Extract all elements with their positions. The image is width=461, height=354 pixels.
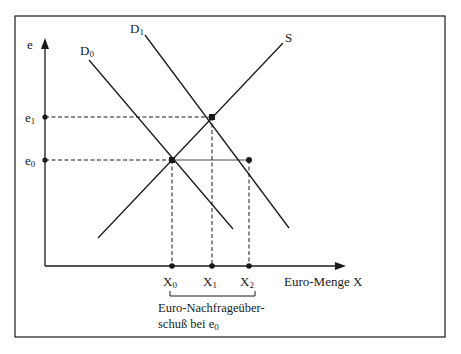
x-axis-label-text: Euro-Menge X bbox=[284, 274, 362, 289]
x-axis-arrow-icon bbox=[335, 262, 346, 270]
excess-demand-caption: Euro-Nachfrageüber- schuß bei e0 bbox=[158, 300, 265, 335]
point-x1-axis bbox=[209, 263, 215, 269]
excess-demand-bracket bbox=[170, 291, 255, 296]
y-axis-label: e bbox=[27, 38, 33, 51]
equilibrium-point-e0 bbox=[169, 157, 175, 163]
x-axis-label: Euro-Menge X bbox=[284, 275, 362, 288]
x-point-x2-label: X2 bbox=[240, 275, 254, 290]
supply-curve-s bbox=[98, 43, 283, 238]
x-point-x0-sub: 0 bbox=[172, 280, 177, 290]
x-point-x1-label: X1 bbox=[203, 275, 217, 290]
curve-label-d0-sub: 0 bbox=[89, 49, 94, 59]
y-axis-label-text: e bbox=[27, 37, 33, 52]
caption-line-2-sub: 0 bbox=[214, 322, 219, 332]
caption-line-1: Euro-Nachfrageüber- bbox=[158, 300, 265, 316]
point-e0-axis bbox=[42, 157, 47, 162]
curve-label-s-main: S bbox=[285, 30, 292, 45]
y-level-e0-label: e0 bbox=[25, 154, 35, 169]
y-level-e1-sub: 1 bbox=[31, 116, 36, 126]
demand-curve-d0 bbox=[89, 60, 233, 229]
point-x2-axis bbox=[246, 263, 252, 269]
curve-label-d1-sub: 1 bbox=[139, 27, 144, 37]
x-point-x1-main: X bbox=[203, 274, 212, 289]
point-d1-at-e0 bbox=[246, 157, 252, 163]
caption-line-2: schuß bei e0 bbox=[158, 316, 265, 335]
frame-border bbox=[15, 16, 445, 337]
point-e1-axis bbox=[42, 114, 47, 119]
equilibrium-point-e1 bbox=[209, 114, 215, 120]
x-point-x2-main: X bbox=[240, 274, 249, 289]
x-point-x0-main: X bbox=[163, 274, 172, 289]
y-axis-arrow-icon bbox=[41, 38, 49, 49]
x-point-x1-sub: 1 bbox=[212, 280, 217, 290]
point-x0-axis bbox=[169, 263, 175, 269]
caption-line-2-main: schuß bei e bbox=[158, 317, 214, 331]
curve-label-d1-main: D bbox=[130, 21, 139, 36]
curve-label-d1: D1 bbox=[130, 22, 144, 37]
y-level-e0-sub: 0 bbox=[31, 159, 36, 169]
curve-label-d0: D0 bbox=[80, 44, 94, 59]
x-point-x2-sub: 2 bbox=[249, 280, 254, 290]
y-level-e1-label: e1 bbox=[25, 111, 35, 126]
curve-label-s: S bbox=[285, 31, 292, 44]
demand-curve-d1 bbox=[145, 35, 289, 228]
x-point-x0-label: X0 bbox=[163, 275, 177, 290]
curve-label-d0-main: D bbox=[80, 43, 89, 58]
